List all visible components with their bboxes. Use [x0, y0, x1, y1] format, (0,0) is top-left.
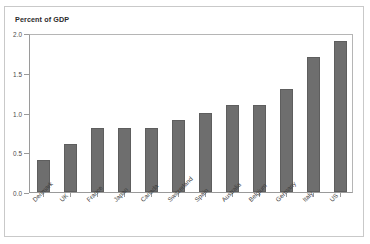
bar	[253, 105, 266, 192]
bar	[226, 105, 239, 192]
bar-series	[30, 35, 352, 192]
bar	[280, 89, 293, 192]
clipped-header-strip	[0, 0, 370, 5]
bar	[199, 113, 212, 193]
y-axis-tick-label: 0.5	[5, 150, 22, 157]
x-axis-category-label: UK	[58, 192, 69, 203]
bar	[307, 57, 320, 192]
y-axis-tick-label: 1.5	[5, 70, 22, 77]
figure-frame: Percent of GDP 0.00.51.01.52.0 DenmarkUK…	[4, 6, 364, 237]
bar	[334, 41, 347, 192]
y-axis-tick-label: 0.0	[5, 190, 22, 197]
x-axis-category-label: US	[328, 192, 339, 203]
chart-title: Percent of GDP	[15, 15, 69, 24]
bar	[91, 128, 104, 192]
y-axis-tick-label: 1.0	[5, 110, 22, 117]
y-axis-tick	[24, 193, 29, 194]
bar	[118, 128, 131, 192]
x-axis-tick	[70, 193, 71, 197]
bar	[64, 144, 77, 192]
bar	[145, 128, 158, 192]
y-axis-tick-label: 2.0	[5, 31, 22, 38]
plot-area	[29, 34, 353, 193]
x-axis-tick	[340, 193, 341, 197]
